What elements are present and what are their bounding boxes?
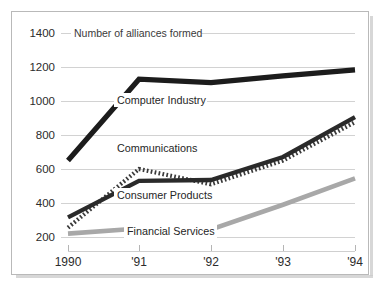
series-line-communications	[68, 117, 355, 217]
frame-shadow-bottom	[16, 275, 373, 278]
y-tick-label: 400	[36, 197, 55, 209]
chart-figure: 1400 1200 1000 800 600 400 200 Number of…	[0, 0, 386, 291]
y-tick-label: 600	[36, 163, 55, 175]
x-tick-label: '91	[131, 255, 147, 269]
series-line-consumer-products	[68, 122, 355, 227]
x-tick-label: '94	[347, 255, 363, 269]
x-tick-label: '93	[275, 255, 291, 269]
line-chart-plot: 1400 1200 1000 800 600 400 200 Number of…	[11, 11, 369, 275]
series-label-communications: Communications	[117, 142, 198, 154]
series-label-consumer-products: Consumer Products	[117, 189, 213, 201]
y-tick-label: 1400	[29, 27, 55, 39]
x-tick-label: '92	[203, 255, 219, 269]
y-tick-label: 1200	[29, 61, 55, 73]
x-axis	[68, 245, 355, 251]
y-tick-label: 800	[36, 129, 55, 141]
x-tick-label: 1990	[55, 255, 82, 269]
chart-title: Number of alliances formed	[74, 27, 203, 39]
y-tick-label: 200	[36, 231, 55, 243]
series-annotations: Computer Industry Communications Consume…	[114, 93, 217, 238]
series-label-computer-industry: Computer Industry	[117, 94, 206, 106]
series-label-financial-services: Financial Services	[127, 225, 215, 237]
gridlines	[61, 33, 355, 237]
y-tick-label: 1000	[29, 95, 55, 107]
frame-shadow-right	[370, 16, 373, 276]
y-axis-tick-labels: 1400 1200 1000 800 600 400 200	[29, 27, 55, 243]
x-axis-tick-labels: 1990 '91 '92 '93 '94	[55, 255, 363, 269]
